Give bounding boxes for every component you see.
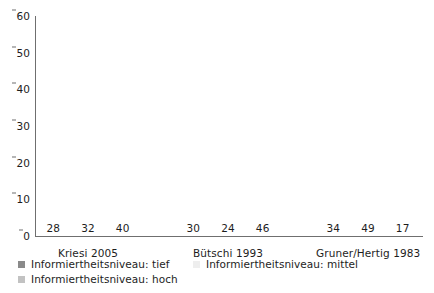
y-tick-30: 30 — [16, 120, 36, 132]
chart-legend: Informiertheitsniveau: tief Informierthe… — [18, 258, 426, 288]
bar-value-label: 32 — [71, 222, 106, 234]
y-tick-20: 20 — [16, 157, 36, 169]
y-tick-mark — [12, 156, 16, 157]
bar-group: 30 24 46 Bütschi 1993 — [176, 16, 280, 236]
legend-swatch-icon — [18, 261, 25, 268]
bar-value-label: 28 — [36, 222, 71, 234]
y-tick-mark — [19, 230, 23, 231]
y-tick-label: 10 — [16, 193, 30, 205]
y-tick-mark — [12, 83, 16, 84]
x-axis-line — [35, 236, 423, 237]
legend-item-hoch: Informiertheitsniveau: hoch — [18, 273, 193, 285]
y-tick-0: 0 — [23, 230, 36, 242]
legend-label: Informiertheitsniveau: tief — [31, 258, 169, 270]
y-tick-mark — [12, 46, 16, 47]
legend-item-tief: Informiertheitsniveau: tief — [18, 258, 193, 270]
bar-group-bars: 30 24 46 — [176, 16, 280, 236]
bar-value-label: 34 — [316, 222, 351, 234]
bar-chart: 60 50 40 30 20 10 0 28 32 40 — [0, 0, 434, 293]
legend-label: Informiertheitsniveau: hoch — [31, 273, 178, 285]
y-tick-label: 0 — [23, 230, 30, 242]
y-tick-label: 30 — [16, 120, 30, 132]
legend-label: Informiertheitsniveau: mittel — [206, 258, 358, 270]
y-tick-mark — [12, 10, 16, 11]
bar-group-bars: 34 49 17 — [316, 16, 420, 236]
bar-value-label: 49 — [351, 222, 386, 234]
legend-swatch-icon — [18, 276, 25, 283]
y-tick-label: 40 — [16, 83, 30, 95]
bar-value-label: 17 — [385, 222, 420, 234]
bar-group-bars: 28 32 40 — [36, 16, 140, 236]
plot-area: 60 50 40 30 20 10 0 28 32 40 — [36, 16, 422, 236]
legend-item-mittel: Informiertheitsniveau: mittel — [193, 258, 358, 270]
bar-value-label: 30 — [176, 222, 211, 234]
y-tick-label: 60 — [16, 10, 30, 22]
legend-row: Informiertheitsniveau: tief Informierthe… — [18, 258, 426, 273]
bar-group: 34 49 17 Gruner/Hertig 1983 — [316, 16, 420, 236]
y-tick-label: 50 — [16, 47, 30, 59]
y-tick-label: 20 — [16, 157, 30, 169]
bar-value-label: 24 — [211, 222, 246, 234]
legend-row: Informiertheitsniveau: hoch — [18, 273, 426, 288]
legend-swatch-icon — [193, 261, 200, 268]
bar-group: 28 32 40 Kriesi 2005 — [36, 16, 140, 236]
bar-value-label: 40 — [105, 222, 140, 234]
y-tick-10: 10 — [16, 193, 36, 205]
y-tick-40: 40 — [16, 83, 36, 95]
y-tick-50: 50 — [16, 47, 36, 59]
bar-value-label: 46 — [245, 222, 280, 234]
y-tick-mark — [12, 193, 16, 194]
y-tick-mark — [12, 120, 16, 121]
y-tick-60: 60 — [16, 10, 36, 22]
